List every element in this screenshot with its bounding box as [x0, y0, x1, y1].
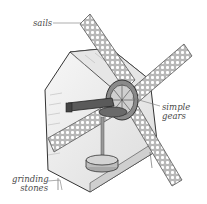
- stones-leader: [48, 180, 62, 190]
- grinding-stones-label: grinding stones: [12, 175, 48, 193]
- sails-label: sails: [33, 19, 52, 28]
- simple-gears-label: simple gears: [162, 103, 190, 121]
